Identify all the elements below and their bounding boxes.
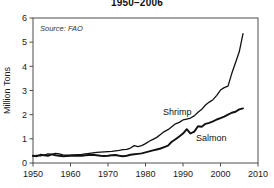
x-tick-label: 2010	[248, 169, 268, 179]
y-tick-label: 2	[22, 110, 27, 120]
x-tick-label: 1970	[98, 169, 118, 179]
y-tick-label: 0	[22, 158, 27, 168]
x-tick-label: 1990	[173, 169, 193, 179]
y-tick-label: 1	[22, 134, 27, 144]
y-tick-label: 3	[22, 86, 27, 96]
y-tick-label: 5	[22, 37, 27, 47]
chart-plot-area: 01234561950196019701980199020002010Milli…	[0, 0, 274, 188]
x-tick-label: 2000	[210, 169, 230, 179]
chart-figure: 1950–2006 012345619501960197019801990200…	[0, 0, 274, 188]
y-tick-label: 6	[22, 13, 27, 23]
chart-subtitle: 1950–2006	[0, 0, 274, 8]
x-tick-label: 1980	[135, 169, 155, 179]
x-tick-label: 1950	[23, 169, 43, 179]
x-tick-label: 1960	[60, 169, 80, 179]
y-tick-label: 4	[22, 62, 27, 72]
series-label-salmon: Salmon	[196, 133, 227, 143]
series-label-shrimp: Shrimp	[163, 107, 192, 117]
y-axis-label: Million Tons	[2, 67, 12, 114]
source-annotation: Source: FAO	[40, 24, 83, 33]
